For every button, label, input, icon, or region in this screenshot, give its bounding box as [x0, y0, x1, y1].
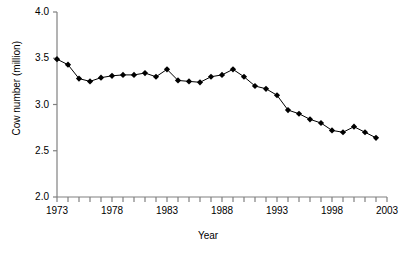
x-tick-label: 1978 — [89, 205, 135, 216]
x-axis — [57, 197, 387, 202]
x-tick-label: 1983 — [144, 205, 190, 216]
y-tick-label: 3.5 — [15, 52, 49, 63]
x-tick-label: 2003 — [364, 205, 410, 216]
x-tick-label: 1973 — [34, 205, 80, 216]
cow-number-line-chart: Cow number (million) Year 4.03.53.02.52.… — [0, 0, 416, 256]
plot-area — [0, 0, 416, 256]
x-tick-label: 1993 — [254, 205, 300, 216]
y-tick-label: 2.0 — [15, 191, 49, 202]
y-tick-label: 2.5 — [15, 145, 49, 156]
x-tick-label: 1998 — [309, 205, 355, 216]
y-axis — [53, 12, 57, 197]
y-tick-label: 4.0 — [15, 6, 49, 17]
x-tick-label: 1988 — [199, 205, 245, 216]
y-tick-label: 3.0 — [15, 99, 49, 110]
data-series — [54, 56, 379, 141]
